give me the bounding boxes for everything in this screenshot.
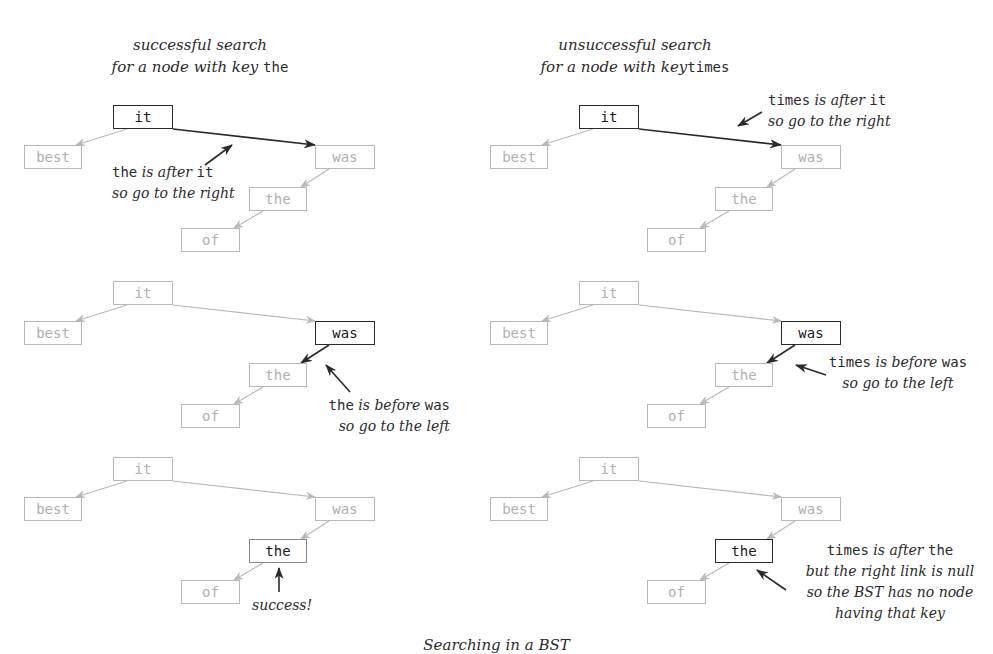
note-key: times	[829, 354, 871, 370]
note-line2: so go to the left	[270, 416, 450, 437]
bst-node-it: it	[113, 105, 173, 129]
bst-node-the: the	[715, 363, 773, 387]
note-target: it	[196, 164, 213, 180]
bst-node-of: of	[647, 580, 706, 604]
link-the-of	[700, 387, 729, 404]
pointer-arrow-left-step2	[326, 365, 350, 392]
link-the-of	[234, 563, 263, 580]
note-relation: is before	[358, 397, 420, 413]
note-target: was	[942, 354, 967, 370]
link-it-best	[76, 129, 127, 145]
bst-node-was: was	[315, 497, 375, 521]
link-was-the-active	[301, 345, 329, 363]
link-the-of	[700, 563, 729, 580]
bst-node-best: best	[24, 321, 82, 345]
link-it-was	[173, 305, 315, 321]
link-it-best	[542, 481, 593, 497]
note-line2: so go to the left	[808, 373, 988, 394]
note-line1: times is before was	[808, 352, 988, 373]
note-left-step1: the is after it so go to the right	[112, 162, 235, 204]
bst-node-was: was	[315, 145, 375, 169]
note-line3: so the BST has no node	[790, 582, 990, 603]
bst-node-was: was	[781, 145, 841, 169]
bst-node-the: the	[715, 187, 773, 211]
note-right-step3: times is after the but the right link is…	[790, 540, 990, 624]
bst-node-the: the	[249, 187, 307, 211]
pointer-arrow-right-step3	[757, 570, 786, 590]
note-left-step3: success!	[252, 595, 312, 616]
link-it-was	[639, 481, 781, 497]
bst-node-the: the	[249, 539, 307, 563]
note-line1: times is after the	[790, 540, 990, 561]
bst-node-of: of	[647, 404, 706, 428]
note-line2: but the right link is null	[790, 561, 990, 582]
bst-node-the: the	[715, 539, 773, 563]
success-label: success!	[252, 595, 312, 616]
note-key: the	[112, 164, 137, 180]
bst-node-it: it	[113, 281, 173, 305]
bst-node-of: of	[181, 228, 240, 252]
bst-node-of: of	[647, 228, 706, 252]
link-the-of	[234, 211, 263, 228]
note-target: the	[928, 542, 953, 558]
bst-node-of: of	[181, 404, 240, 428]
link-was-the	[767, 521, 795, 539]
note-key: times	[827, 542, 869, 558]
note-line2: so go to the right	[768, 111, 891, 132]
link-it-was	[173, 481, 315, 497]
note-relation: is after	[142, 164, 192, 180]
note-key: the	[329, 397, 354, 413]
link-the-of	[234, 387, 263, 404]
note-key: times	[768, 92, 810, 108]
note-line1: the is after it	[112, 162, 235, 183]
note-right-step2: times is before was so go to the left	[808, 352, 988, 394]
link-the-of	[700, 211, 729, 228]
note-line1: times is after it	[768, 90, 891, 111]
link-it-was-active	[173, 129, 315, 145]
note-right-step1: times is after it so go to the right	[768, 90, 891, 132]
figure-caption: Searching in a BST	[0, 636, 993, 654]
note-line4: having that key	[790, 603, 990, 624]
note-left-step2: the is before was so go to the left	[270, 395, 450, 437]
bst-node-it: it	[579, 281, 639, 305]
note-relation: is before	[875, 354, 937, 370]
bst-node-best: best	[490, 497, 548, 521]
note-line1: the is before was	[270, 395, 450, 416]
link-it-was-active	[639, 129, 781, 145]
pointer-arrow-right-step1	[738, 112, 762, 126]
link-it-best	[76, 481, 127, 497]
bst-node-was: was	[315, 321, 375, 345]
bst-node-best: best	[24, 497, 82, 521]
bst-node-was: was	[781, 321, 841, 345]
bst-node-it: it	[113, 457, 173, 481]
note-relation: is after	[873, 542, 923, 558]
bst-node-best: best	[24, 145, 82, 169]
link-was-the-active	[767, 345, 795, 363]
bst-node-of: of	[181, 580, 240, 604]
link-it-was	[639, 305, 781, 321]
link-was-the	[301, 169, 329, 187]
bst-node-it: it	[579, 105, 639, 129]
note-target: it	[869, 92, 886, 108]
link-it-best	[76, 305, 127, 321]
bst-node-was: was	[781, 497, 841, 521]
bst-node-it: it	[579, 457, 639, 481]
link-it-best	[542, 305, 593, 321]
note-line2: so go to the right	[112, 183, 235, 204]
note-target: was	[425, 397, 450, 413]
bst-node-best: best	[490, 321, 548, 345]
link-was-the	[767, 169, 795, 187]
bst-node-the: the	[249, 363, 307, 387]
link-was-the	[301, 521, 329, 539]
note-relation: is after	[815, 92, 865, 108]
link-it-best	[542, 129, 593, 145]
bst-node-best: best	[490, 145, 548, 169]
